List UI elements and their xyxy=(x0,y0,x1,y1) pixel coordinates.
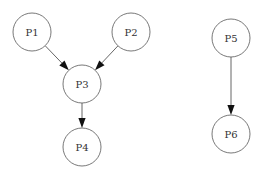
node-p2: P2 xyxy=(112,13,150,51)
node-p6: P6 xyxy=(212,115,250,153)
node-p4: P4 xyxy=(63,128,101,166)
arrowhead-icon xyxy=(227,105,234,115)
edge-line xyxy=(102,46,118,63)
node-p3: P3 xyxy=(63,65,101,103)
node-p5: P5 xyxy=(212,19,250,57)
node-label: P2 xyxy=(124,27,137,38)
nodes-layer: P1P2P3P4P5P6 xyxy=(13,13,250,166)
node-label: P4 xyxy=(75,142,88,153)
node-label: P3 xyxy=(75,79,88,90)
process-graph: P1P2P3P4P5P6 xyxy=(0,0,268,173)
edge-line xyxy=(45,46,62,63)
node-label: P6 xyxy=(224,129,237,140)
edge-p5-p6 xyxy=(227,57,234,115)
arrowhead-icon xyxy=(78,118,85,128)
edge-p1-p3 xyxy=(45,46,69,71)
node-p1: P1 xyxy=(13,13,51,51)
edge-p2-p3 xyxy=(95,46,118,70)
node-label: P1 xyxy=(25,27,38,38)
node-label: P5 xyxy=(224,33,237,44)
edge-p3-p4 xyxy=(78,103,85,128)
